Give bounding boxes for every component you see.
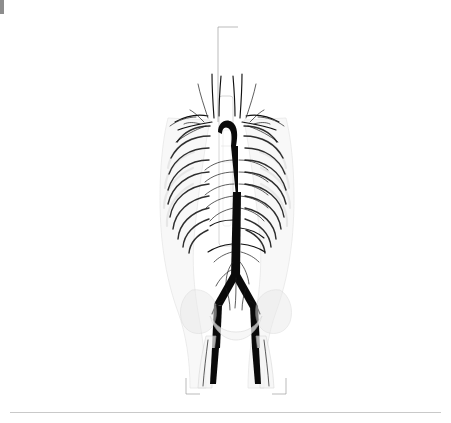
- figure-canvas: [0, 0, 451, 423]
- anatomy-illustration: [0, 0, 451, 423]
- footer-divider: [10, 412, 441, 413]
- vertebral-column: [219, 96, 233, 246]
- femur-bones: [198, 336, 274, 388]
